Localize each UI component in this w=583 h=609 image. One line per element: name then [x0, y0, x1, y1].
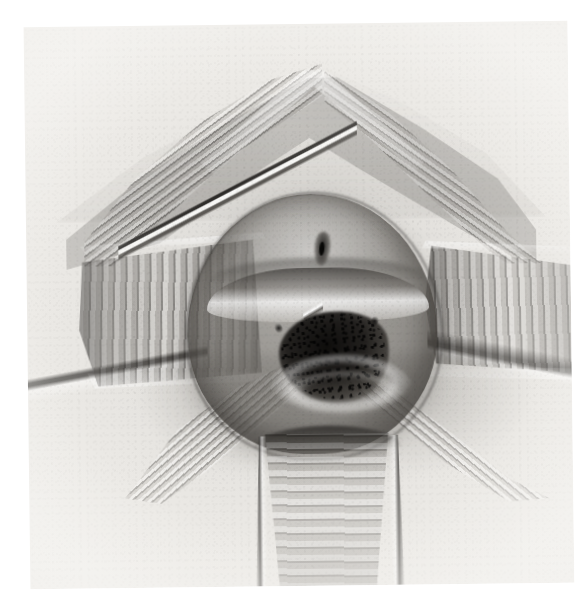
illustration-plate [24, 21, 575, 590]
paper-grain-texture [24, 21, 575, 590]
illustration-plate-wrapper [24, 21, 575, 590]
page-background [0, 0, 583, 609]
